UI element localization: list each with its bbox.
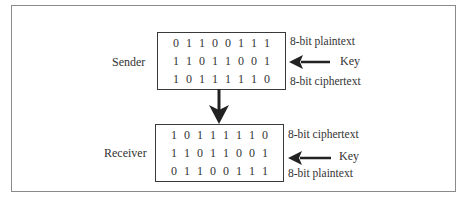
bit: 0 (246, 146, 259, 161)
bit: 0 (194, 146, 207, 161)
receiver-row-key: 1 1 0 1 1 0 0 1 (156, 146, 283, 161)
bit: 1 (233, 164, 246, 179)
down-arrow-icon (208, 89, 230, 125)
bit: 0 (233, 146, 246, 161)
receiver-row-plaintext: 0 1 1 0 0 1 1 1 (156, 164, 283, 179)
sender-label: Sender (112, 55, 145, 70)
bit: 1 (194, 164, 207, 179)
bit: 1 (168, 128, 181, 143)
bit: 1 (209, 72, 222, 87)
bit: 0 (248, 54, 261, 69)
bit: 1 (183, 54, 196, 69)
bit: 1 (183, 36, 196, 51)
bit: 1 (196, 72, 209, 87)
bit: 1 (209, 54, 222, 69)
bit: 0 (183, 72, 196, 87)
receiver-row-ciphertext: 1 0 1 1 1 1 1 0 (156, 128, 283, 143)
bit: 0 (181, 128, 194, 143)
bit: 1 (261, 36, 274, 51)
bit: 0 (209, 36, 222, 51)
bit: 1 (261, 54, 274, 69)
bit: 0 (168, 164, 181, 179)
sender-key-arrow-icon (289, 54, 331, 70)
bit: 1 (259, 146, 272, 161)
bit: 0 (261, 72, 274, 87)
bit: 0 (222, 36, 235, 51)
bit: 1 (259, 164, 272, 179)
bit: 1 (222, 54, 235, 69)
bit: 1 (194, 128, 207, 143)
sender-plaintext-label: 8-bit plaintext (290, 35, 355, 47)
bit: 1 (170, 54, 183, 69)
sender-row-key: 1 1 0 1 1 0 0 1 (158, 54, 285, 69)
sender-box: 0 1 1 0 0 1 1 1 1 1 0 1 1 0 0 1 1 0 1 1 … (157, 32, 286, 90)
bit: 1 (220, 146, 233, 161)
bit: 1 (207, 128, 220, 143)
sender-key-label: Key (340, 54, 360, 69)
receiver-plaintext-label: 8-bit plaintext (288, 167, 353, 179)
bit: 1 (222, 72, 235, 87)
bit: 1 (196, 36, 209, 51)
bit: 0 (235, 54, 248, 69)
bit: 1 (246, 128, 259, 143)
bit: 1 (220, 128, 233, 143)
bit: 0 (259, 128, 272, 143)
bit: 1 (248, 36, 261, 51)
bit: 1 (248, 72, 261, 87)
receiver-ciphertext-label: 8-bit ciphertext (288, 128, 359, 140)
receiver-box: 1 0 1 1 1 1 1 0 1 1 0 1 1 0 0 1 0 1 1 0 … (155, 124, 284, 182)
bit: 1 (235, 72, 248, 87)
bit: 1 (233, 128, 246, 143)
bit: 0 (207, 164, 220, 179)
bit: 0 (220, 164, 233, 179)
bit: 0 (196, 54, 209, 69)
bit: 1 (181, 146, 194, 161)
receiver-key-label: Key (339, 149, 359, 164)
bit: 1 (207, 146, 220, 161)
bit: 1 (168, 146, 181, 161)
bit: 1 (235, 36, 248, 51)
bit: 1 (181, 164, 194, 179)
sender-row-plaintext: 0 1 1 0 0 1 1 1 (158, 36, 285, 51)
receiver-key-arrow-icon (288, 150, 332, 166)
sender-ciphertext-label: 8-bit ciphertext (290, 75, 361, 87)
bit: 1 (170, 72, 183, 87)
bit: 0 (170, 36, 183, 51)
sender-row-ciphertext: 1 0 1 1 1 1 1 0 (158, 72, 285, 87)
receiver-label: Receiver (104, 146, 147, 161)
bit: 1 (246, 164, 259, 179)
